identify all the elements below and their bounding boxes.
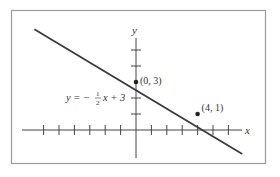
- point-label: (4, 1): [202, 102, 224, 114]
- graph-frame: [12, 11, 266, 164]
- point-marker: [134, 80, 139, 85]
- point-marker: [195, 112, 200, 117]
- line-graph: (0, 3)(4, 1) x y y = − 1 2 x + 3: [0, 0, 280, 177]
- equation-numerator: 1: [96, 90, 100, 98]
- x-axis-label: x: [244, 124, 250, 136]
- axes: [22, 38, 242, 158]
- point-label: (0, 3): [140, 75, 162, 87]
- equation-label: y = − 1 2 x + 3: [65, 90, 125, 107]
- labeled-points: (0, 3)(4, 1): [134, 75, 224, 116]
- equation-denominator: 2: [96, 99, 100, 107]
- equation-rhs: x + 3: [102, 92, 125, 103]
- equation-lhs: y = −: [65, 92, 90, 103]
- y-axis-label: y: [131, 24, 137, 36]
